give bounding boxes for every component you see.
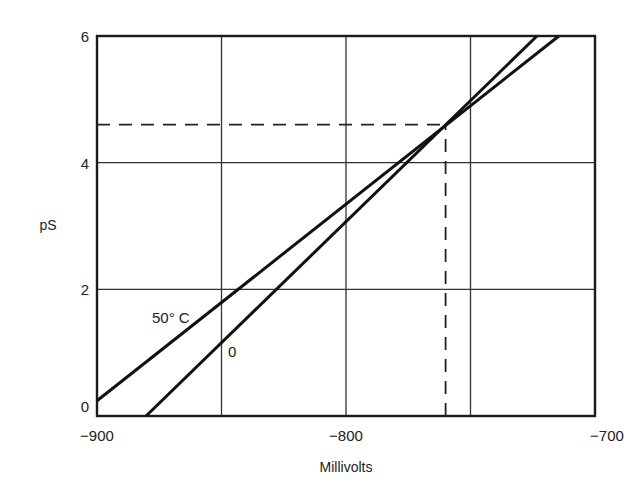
x-tick-label: −700 (590, 427, 624, 444)
y-tick-label: 6 (81, 28, 89, 45)
chart: 0246 −900−800−700 pS Millivolts 50° C 0 (0, 0, 634, 499)
curve-label-0: 0 (228, 343, 236, 360)
series-line-50c (97, 36, 559, 401)
y-axis-label: pS (39, 217, 56, 233)
y-tick-labels: 0246 (81, 28, 89, 415)
x-tick-label: −800 (329, 427, 363, 444)
curve-label-50c: 50° C (152, 309, 190, 326)
x-tick-label: −900 (80, 427, 114, 444)
y-tick-label: 0 (81, 398, 89, 415)
y-tick-label: 4 (81, 155, 89, 172)
x-tick-labels: −900−800−700 (80, 427, 624, 444)
x-axis-label: Millivolts (320, 459, 373, 475)
y-tick-label: 2 (81, 281, 89, 298)
gridlines (97, 36, 595, 416)
series-line-0 (146, 36, 537, 416)
series-lines (97, 36, 559, 416)
